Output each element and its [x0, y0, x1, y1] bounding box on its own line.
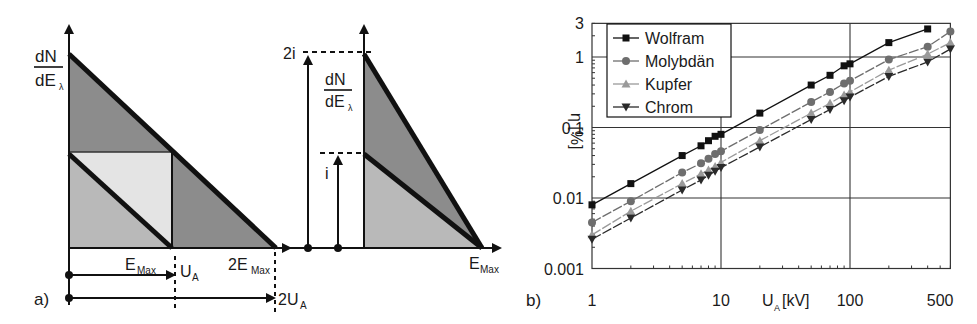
2ua-label: 2U	[278, 291, 298, 308]
legend-label: Kupfer	[645, 76, 693, 93]
emax-sub-2: Max	[480, 264, 499, 275]
x-axis-title-sub: A	[774, 303, 780, 313]
ua-label: U	[180, 263, 192, 280]
y-label-num-2: dN	[325, 71, 345, 88]
y-label-num: dN	[35, 47, 57, 66]
2emax-label: 2E	[228, 256, 248, 273]
panel-b-chart: 1101005000.0010.010.113 WolframMolybdänK…	[526, 15, 955, 313]
panel-a-label: a)	[34, 290, 49, 309]
2emax-sub: Max	[251, 265, 270, 276]
ua-sub: A	[192, 272, 199, 283]
legend-label: Wolfram	[645, 30, 704, 47]
x-tick-label: 100	[837, 292, 864, 309]
y-label-den: dE	[35, 71, 56, 90]
y-axis-title: η [%]	[568, 113, 585, 149]
x-tick-label: 10	[712, 292, 730, 309]
figure: dN dE λ E Max U A 2E Max 2U A a) 2i i dN	[0, 0, 977, 324]
y-tick-label: 0.01	[553, 190, 584, 207]
panel-a-current: 2i i dN dE λ E Max	[283, 26, 500, 275]
legend-label: Molybdän	[645, 53, 714, 70]
x-axis-unit: [kV]	[782, 292, 810, 309]
emax-label-2: E	[469, 255, 480, 272]
emax-label: E	[125, 256, 136, 273]
y-tick-label: 3	[575, 15, 584, 32]
2ua-sub: A	[300, 300, 307, 311]
emax-sub: Max	[137, 265, 156, 276]
panel-a-spectrum: dN dE λ E Max U A 2E Max 2U A a)	[34, 26, 307, 312]
legend-label: Chrom	[645, 99, 693, 116]
current-2i-label: 2i	[283, 45, 295, 62]
x-axis-title: U	[762, 292, 774, 309]
chart-legend: WolframMolybdänKupferChrom	[607, 24, 731, 117]
y-tick-label: 0.001	[544, 261, 584, 278]
x-tick-label: 500	[927, 292, 954, 309]
y-label-den-2: dE	[325, 93, 345, 110]
y-label-sub: λ	[59, 82, 64, 92]
x-tick-label: 1	[588, 292, 597, 309]
y-tick-label: 1	[575, 49, 584, 66]
current-i-label: i	[325, 165, 329, 182]
y-label-sub-2: λ	[348, 103, 353, 113]
panel-b-label: b)	[526, 291, 541, 310]
